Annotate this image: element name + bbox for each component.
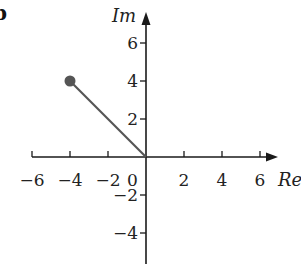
complex-plane-chart: b −6−4−2246642−2−4 Re Im 0 [0,0,301,264]
x-tick-label: −4 [57,170,82,190]
data-point [65,76,76,87]
axes [32,12,278,264]
x-tick-label: 6 [255,170,266,190]
y-tick-label: 4 [127,71,138,91]
y-axis-label: Im [111,5,136,26]
y-tick-label: −4 [113,223,138,243]
y-tick-label: 6 [127,33,138,53]
x-tick-label: 4 [217,170,228,190]
x-axis-label: Re [277,169,301,190]
origin-label: 0 [127,170,138,190]
y-tick-label: 2 [127,109,138,129]
x-tick-label: 2 [179,170,190,190]
y-axis-arrow-icon [142,12,151,25]
figure-label: b [0,1,7,25]
tick-marks: −6−4−2246642−2−4 [19,33,265,243]
x-tick-label: −6 [19,170,44,190]
x-axis-arrow-icon [266,153,278,162]
